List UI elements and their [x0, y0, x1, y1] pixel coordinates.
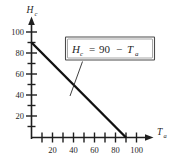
chart-figure: 100 80 60 40 20 H c 20 40 — [0, 0, 169, 167]
y-tick-label-60: 60 — [16, 69, 25, 79]
x-axis-title-subscript: a — [164, 132, 167, 139]
equation-annotation: H c = 90 − T a — [66, 37, 155, 60]
x-tick-label-60: 60 — [90, 145, 99, 155]
y-tick-label-20: 20 — [16, 111, 25, 121]
equation-rhs-base: T — [127, 43, 134, 55]
y-axis-title-subscript: c — [35, 10, 38, 17]
x-tick-label-80: 80 — [111, 145, 120, 155]
y-axis-arrowhead — [28, 17, 35, 26]
x-axis-arrowhead — [145, 134, 154, 141]
y-tick-label-100: 100 — [11, 27, 24, 37]
x-axis-title: T a — [157, 127, 167, 139]
y-tick-label-40: 40 — [16, 90, 25, 100]
line-chart-plot: 100 80 60 40 20 H c 20 40 — [0, 0, 169, 167]
equation-equals-sign: = — [89, 43, 95, 55]
y-axis-title-base: H — [26, 5, 35, 15]
x-tick-label-100: 100 — [130, 145, 143, 155]
x-axis-title-base: T — [157, 127, 163, 137]
y-axis-title: H c — [26, 5, 38, 17]
equation-constant: 90 — [99, 43, 111, 55]
x-tick-label-20: 20 — [48, 145, 57, 155]
y-axis — [28, 17, 35, 140]
x-axis — [32, 134, 154, 141]
y-tick-label-80: 80 — [16, 48, 25, 58]
x-tick-label-40: 40 — [69, 145, 78, 155]
equation-minus-sign: − — [116, 43, 122, 55]
equation-rhs-subscript: a — [135, 50, 139, 58]
